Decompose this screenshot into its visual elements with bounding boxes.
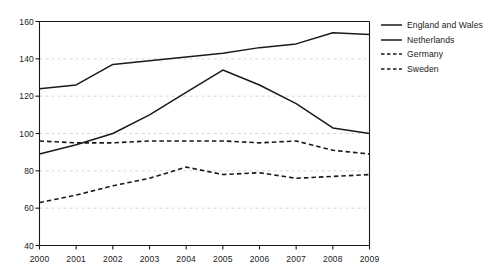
x-tick-label: 2006 (240, 255, 280, 264)
x-tick-label: 2007 (276, 255, 316, 264)
x-tick-label: 2005 (203, 255, 243, 264)
legend-line-swatch-dashed (381, 64, 402, 74)
legend-line-swatch-solid (381, 35, 402, 45)
line-chart: 406080100120140160 200020012002200320042… (0, 0, 500, 278)
legend-item[interactable]: Netherlands (381, 33, 500, 48)
legend-label: England and Wales (407, 20, 483, 30)
x-tick-label: 2009 (350, 255, 390, 264)
x-tick-label: 2000 (20, 255, 60, 264)
x-tick-label: 2001 (56, 255, 96, 264)
legend-item[interactable]: Sweden (381, 62, 500, 77)
legend-item[interactable]: England and Wales (381, 18, 500, 33)
legend-label: Netherlands (407, 35, 454, 45)
x-tick-label: 2004 (166, 255, 206, 264)
legend-line-swatch-solid (381, 20, 402, 30)
legend-label: Germany (407, 49, 443, 59)
x-tick-label: 2002 (93, 255, 133, 264)
x-tick-label: 2008 (313, 255, 353, 264)
x-tick-label: 2003 (130, 255, 170, 264)
legend-label: Sweden (407, 64, 439, 74)
legend-item[interactable]: Germany (381, 47, 500, 62)
chart-legend: England and WalesNetherlandsGermanySwede… (381, 18, 500, 76)
legend-line-swatch-dashed (381, 49, 402, 59)
